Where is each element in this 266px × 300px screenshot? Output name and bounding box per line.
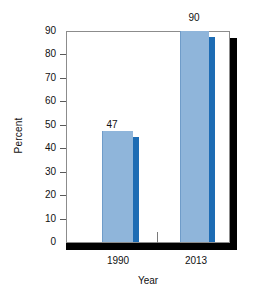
bar-chart-figure: Percent 90 80 70 60 50 40 30 20 10 0	[0, 0, 266, 300]
bar-value-2013: 90	[170, 12, 218, 23]
y-tick-label-90: 90	[30, 26, 56, 36]
y-tick-label-80: 80	[30, 49, 56, 59]
y-tick-label-20: 20	[30, 190, 56, 200]
x-axis-mid-tick	[157, 232, 158, 243]
bar-1990[interactable]	[102, 131, 139, 242]
y-tick-label-60: 60	[30, 96, 56, 106]
x-tick-label-1990: 1990	[94, 255, 142, 266]
y-tick-label-70: 70	[30, 73, 56, 83]
y-tick-label-10: 10	[30, 214, 56, 224]
x-axis-title: Year	[66, 275, 230, 286]
y-axis-title: Percent	[13, 96, 24, 176]
x-axis-baseline	[66, 243, 237, 250]
y-tick-label-30: 30	[30, 167, 56, 177]
bar-2013-side	[208, 37, 215, 242]
bar-1990-side	[132, 137, 139, 242]
y-tick-label-0: 0	[30, 237, 56, 247]
x-tick-label-2013: 2013	[172, 255, 220, 266]
y-tick-label-50: 50	[30, 120, 56, 130]
bar-1990-front	[102, 131, 133, 242]
bar-2013[interactable]	[180, 31, 215, 242]
plot-area	[66, 31, 230, 243]
frame-shadow-right	[230, 38, 237, 250]
y-tick-label-40: 40	[30, 143, 56, 153]
bar-value-1990: 47	[88, 119, 136, 130]
bar-2013-front	[180, 31, 209, 242]
